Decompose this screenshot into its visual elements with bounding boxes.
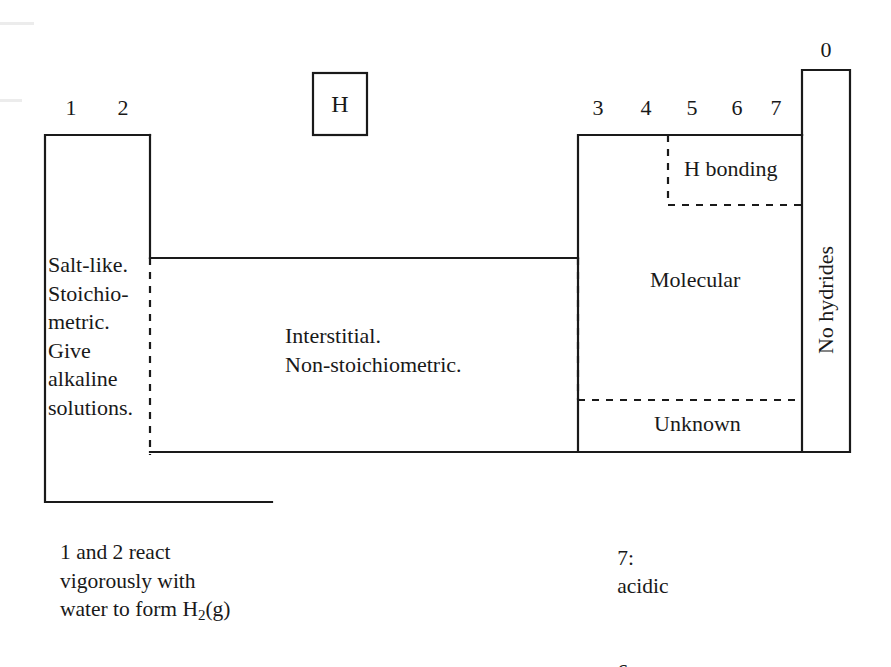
s-block-line-3: metric. [48, 308, 133, 337]
note-right-text-7: acidic [617, 574, 668, 598]
note-left-line-1: 1 and 2 react [60, 538, 231, 567]
group-number-2: 2 [108, 94, 138, 122]
d-block-line-2: Non-stoichiometric. [285, 351, 462, 380]
note-right-key-6: 6: [617, 660, 634, 667]
note-right: 7: acidic 6: H2O amphoteric, H2S weakly … [585, 515, 820, 667]
group-number-1: 1 [56, 94, 86, 122]
s-block-line-6: solutions. [48, 394, 133, 423]
group-number-7: 7 [761, 94, 791, 122]
s-block-line-1: Salt-like. [48, 251, 133, 280]
s-block-line-2: Stoichio- [48, 280, 133, 309]
d-block-line-1: Interstitial. [285, 322, 462, 351]
note-right-key-7: 7: [617, 546, 634, 570]
group-number-4: 4 [631, 94, 661, 122]
note-left-line-3: water to form H2(g) [60, 595, 231, 625]
s-block-line-4: Give [48, 337, 133, 366]
molecular-label: Molecular [650, 266, 740, 294]
s-block-label: Salt-like. Stoichio- metric. Give alkali… [48, 251, 133, 423]
unknown-label: Unknown [654, 410, 741, 438]
h-bonding-label: H bonding [684, 155, 778, 183]
hydride-classification-figure: 1 2 3 4 5 6 7 0 H Salt-like. Stoichio- m… [0, 0, 891, 667]
group-number-3: 3 [583, 94, 613, 122]
subscript-2: 2 [198, 607, 206, 623]
hydrogen-symbol: H [313, 73, 367, 135]
note-left: 1 and 2 react vigorously with water to f… [60, 538, 231, 625]
no-hydrides-label-text: No hydrides [813, 246, 839, 354]
group-number-0: 0 [811, 36, 841, 64]
no-hydrides-label: No hydrides [802, 150, 850, 450]
group-number-6: 6 [722, 94, 752, 122]
d-block-label: Interstitial. Non-stoichiometric. [285, 322, 462, 379]
group-number-5: 5 [677, 94, 707, 122]
s-block-line-5: alkaline [48, 365, 133, 394]
note-right-line-1: 7: acidic [585, 515, 820, 629]
note-right-line-2: 6: H2O amphoteric, [585, 629, 820, 667]
note-left-line-2: vigorously with [60, 567, 231, 596]
